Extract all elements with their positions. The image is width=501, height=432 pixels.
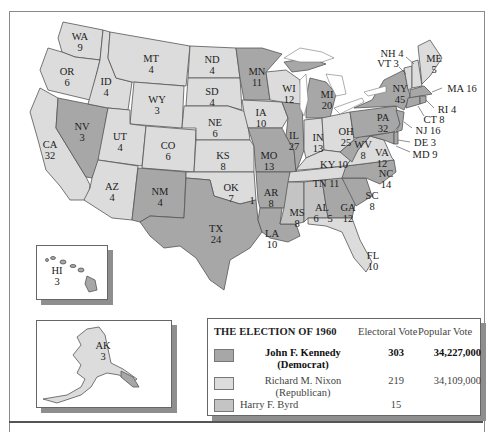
kennedy-swatch xyxy=(214,349,234,362)
leader-ri xyxy=(426,100,434,108)
alaska-inset: AK3 xyxy=(36,320,172,408)
byrd-electoral: 15 xyxy=(376,399,416,410)
label-in: IN13 xyxy=(312,132,323,154)
label-md: MD 9 xyxy=(413,149,438,160)
label-sc: SC8 xyxy=(366,190,379,212)
legend-title: THE ELECTION OF 1960 xyxy=(214,326,337,337)
leader-nj xyxy=(404,122,412,128)
nixon-name: Richard M. Nixon(Republican) xyxy=(238,375,368,399)
state-de xyxy=(394,132,398,144)
byrd-name: Harry F. Byrd xyxy=(240,399,370,411)
legend-col-popular: Popular Vote xyxy=(418,326,472,337)
leader-nh xyxy=(406,57,414,64)
kennedy-name: John F. Kennedy(Democrat) xyxy=(238,347,368,371)
nixon-popular: 34,109,000 xyxy=(413,375,481,386)
kennedy-electoral: 303 xyxy=(376,347,416,358)
state-ri xyxy=(420,96,426,104)
leader-de xyxy=(398,140,410,142)
label-ma: MA 16 xyxy=(447,83,476,94)
label-il: IL27 xyxy=(289,130,300,152)
hawaii-inset: HI3 xyxy=(36,245,108,300)
label-mi: MI20 xyxy=(321,89,334,111)
label-de: DE 3 xyxy=(414,137,436,148)
label-nj: NJ 16 xyxy=(416,125,441,136)
label-vt: VT 3 xyxy=(377,58,399,69)
label-wi: WI12 xyxy=(282,83,296,105)
label-va: VA12 xyxy=(375,147,389,169)
label-fl: FL10 xyxy=(367,250,379,272)
legend-col-electoral: Electoral Vote xyxy=(358,326,417,337)
lake-superior xyxy=(284,48,334,62)
label-ok-byrd: 1 xyxy=(249,195,254,206)
legend-table: THE ELECTION OF 1960 Electoral Vote Popu… xyxy=(207,318,481,416)
kennedy-popular: 34,227,000 xyxy=(413,347,481,358)
hawaii-map: HI3 xyxy=(37,246,107,299)
byrd-swatch xyxy=(214,399,234,412)
label-hi: HI3 xyxy=(51,265,63,287)
label-ia: IA10 xyxy=(255,107,266,129)
state-fl xyxy=(308,218,372,272)
label-tn: TN 11 xyxy=(313,178,340,189)
label-ky: KY 10 xyxy=(320,159,348,170)
leader-md xyxy=(396,146,410,152)
label-ga: GA12 xyxy=(340,202,356,224)
alaska-map: AK3 xyxy=(37,321,171,407)
leader-ma xyxy=(432,88,442,92)
bottom-strip xyxy=(9,423,485,432)
label-ct: CT 8 xyxy=(423,114,444,125)
label-nc: NC14 xyxy=(379,168,394,190)
nixon-swatch xyxy=(214,377,234,390)
nixon-electoral: 219 xyxy=(376,375,416,386)
label-pa: PA32 xyxy=(377,112,390,134)
